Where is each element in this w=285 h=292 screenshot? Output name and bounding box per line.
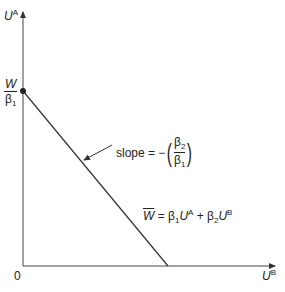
origin-label: 0 bbox=[14, 270, 21, 282]
y-axis-label: UA bbox=[4, 10, 18, 22]
welfare-equation: W = β1UA + β2UB bbox=[143, 210, 232, 225]
intercept-dot bbox=[20, 88, 26, 94]
welfare-line bbox=[23, 91, 168, 266]
slope-annotation: slope = − ( β2 β1 ) bbox=[116, 136, 194, 170]
intercept-label: W β1 bbox=[4, 78, 17, 108]
slope-pointer-arrow bbox=[84, 145, 112, 160]
x-axis-label: UB bbox=[262, 270, 276, 282]
